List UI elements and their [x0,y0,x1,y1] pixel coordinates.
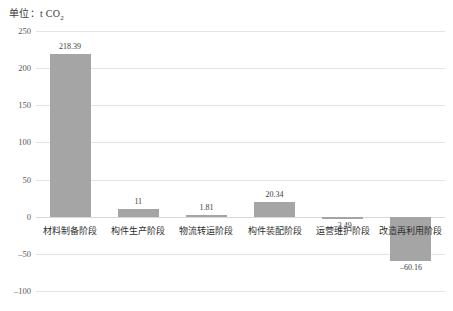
gridline-100 [36,142,445,143]
bar[interactable] [186,215,227,216]
y-axis-tick-label: 250 [18,26,31,36]
y-axis-tick-label: 200 [18,63,31,73]
chart-unit-title: 单位：t CO2 [9,5,64,22]
x-axis-category-label: 构件生产阶段 [111,224,165,237]
gridline-150 [36,105,445,106]
x-axis-category-label: 改造再利用阶段 [379,224,442,237]
unit-title-text: 单位：t CO [9,8,60,19]
unit-title-subscript: 2 [60,14,64,22]
bar[interactable] [118,209,159,217]
bar-value-label: 20.34 [266,190,284,199]
y-axis-tick-label: 100 [18,137,31,147]
gridline-200 [36,68,445,69]
y-axis-tick-label: –50 [18,249,31,259]
bar[interactable] [322,217,363,220]
bar-value-label: 1.81 [199,203,213,212]
plot-area: 250200150100500–50–100218.39材料制备阶段11构件生产… [36,31,445,291]
gridline--100 [36,291,445,292]
y-axis-tick-label: 150 [18,100,31,110]
x-axis-category-label: 构件装配阶段 [248,224,302,237]
bar-value-label: 11 [134,197,142,206]
gridline-50 [36,180,445,181]
x-axis-category-label: 材料制备阶段 [43,224,97,237]
bar-value-label: –60.16 [400,263,422,272]
y-axis-tick-label: 0 [27,212,31,222]
gridline--50 [36,254,445,255]
x-axis-category-label: 物流转运阶段 [179,224,233,237]
bar[interactable] [50,54,91,216]
bar-value-label: 218.39 [59,42,81,51]
y-axis-tick-label: 50 [23,175,32,185]
bar[interactable] [254,202,295,217]
y-axis-tick-label: –100 [14,286,31,296]
x-axis-category-label: 运营维护阶段 [316,224,370,237]
chart-container: 单位：t CO2 250200150100500–50–100218.39材料制… [0,0,453,311]
gridline-0 [36,217,445,218]
gridline-250 [36,31,445,32]
